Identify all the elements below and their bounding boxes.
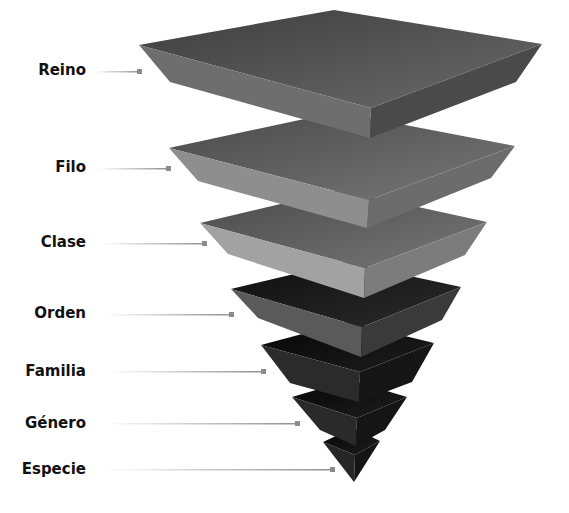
- slab-reino: [139, 10, 542, 138]
- connector-orden: [104, 312, 234, 317]
- label-reino: Reino: [38, 61, 86, 79]
- connector-clase: [100, 241, 207, 246]
- connector-filo: [98, 166, 171, 171]
- connector-familia: [108, 369, 266, 374]
- label-genero: Género: [25, 414, 86, 432]
- connector-genero: [104, 421, 300, 426]
- label-filo: Filo: [55, 158, 86, 176]
- label-orden: Orden: [34, 304, 86, 322]
- label-especie: Especie: [22, 460, 86, 478]
- label-familia: Familia: [25, 362, 86, 380]
- connector-especie: [104, 467, 335, 472]
- connector-reino: [96, 69, 142, 74]
- label-clase: Clase: [41, 233, 86, 251]
- taxonomy-pyramid-diagram: Reino Filo Clase Orden Familia Género Es…: [0, 0, 569, 513]
